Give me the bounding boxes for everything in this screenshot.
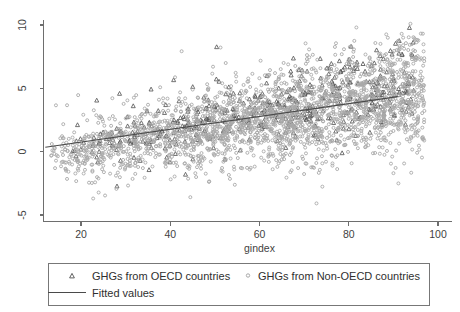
data-point: [196, 166, 199, 169]
data-point: [134, 128, 137, 131]
data-point: [271, 168, 274, 171]
data-point: [255, 88, 258, 91]
data-point: [108, 117, 111, 120]
data-point: [311, 53, 314, 56]
data-point: [156, 123, 159, 126]
data-point: [233, 183, 236, 186]
data-point: [133, 116, 136, 119]
data-point: [262, 150, 265, 153]
data-point: [233, 168, 236, 171]
data-point: [127, 147, 130, 150]
data-point: [196, 96, 199, 99]
legend-item[interactable]: GHGs from Non-OECD countries: [246, 270, 420, 282]
data-point: [336, 168, 339, 171]
data-point: [228, 177, 231, 180]
data-point: [268, 146, 271, 149]
data-point: [245, 111, 248, 114]
data-point: [73, 131, 76, 134]
data-point: [400, 32, 403, 35]
data-point: [354, 103, 357, 106]
data-point: [221, 166, 224, 169]
data-point: [201, 105, 204, 108]
data-point: [315, 90, 318, 93]
data-point: [102, 120, 105, 123]
data-point: [203, 115, 206, 118]
data-point: [83, 168, 86, 171]
data-point: [97, 145, 100, 148]
data-point: [408, 140, 411, 143]
data-point: [133, 147, 136, 150]
data-point: [412, 62, 415, 65]
data-point: [176, 165, 179, 168]
data-point: [259, 59, 262, 62]
data-point: [94, 181, 97, 184]
data-point: [92, 109, 95, 112]
data-point: [214, 96, 217, 99]
data-point: [405, 138, 408, 141]
data-point: [385, 149, 388, 152]
data-point: [386, 36, 389, 39]
data-point: [246, 80, 249, 83]
data-point: [190, 103, 193, 106]
data-point: [50, 143, 53, 146]
data-point: [92, 149, 95, 152]
data-point: [200, 152, 203, 155]
data-point: [347, 117, 350, 120]
data-point: [136, 119, 139, 122]
data-point: [195, 130, 198, 133]
data-point: [177, 151, 180, 154]
data-point: [407, 36, 410, 39]
data-point: [249, 131, 252, 134]
data-point: [291, 135, 294, 138]
data-point: [403, 47, 406, 50]
data-point: [77, 94, 80, 97]
data-point: [179, 110, 182, 113]
data-point: [119, 166, 122, 169]
data-point: [169, 178, 172, 181]
data-point: [300, 104, 303, 107]
data-point: [104, 148, 107, 151]
data-point: [95, 98, 99, 102]
data-point: [179, 91, 182, 94]
data-point: [288, 153, 291, 156]
data-point: [304, 146, 307, 149]
data-point: [164, 165, 167, 168]
data-point: [417, 144, 420, 147]
x-axis-tick-label: 40: [164, 228, 176, 240]
data-point: [325, 160, 328, 163]
data-point: [339, 134, 342, 137]
data-point: [321, 185, 324, 188]
data-point: [421, 126, 424, 129]
data-point: [104, 194, 107, 197]
data-point: [209, 160, 212, 163]
data-point: [214, 132, 217, 135]
data-point: [320, 155, 323, 158]
data-point: [129, 152, 132, 155]
data-point: [279, 68, 282, 71]
data-point: [317, 171, 320, 174]
legend-item[interactable]: GHGs from OECD countries: [70, 270, 231, 282]
data-point: [389, 117, 392, 120]
data-point: [178, 145, 181, 148]
data-point: [397, 182, 400, 185]
data-point: [260, 84, 263, 87]
chart-legend: GHGs from OECD countriesGHGs from Non-OE…: [48, 263, 429, 305]
data-point: [421, 112, 424, 115]
data-point: [223, 143, 226, 146]
data-point: [203, 125, 206, 128]
data-point: [92, 197, 95, 200]
data-point: [177, 97, 180, 100]
data-point: [397, 76, 400, 79]
data-point: [379, 139, 382, 142]
data-point: [222, 160, 225, 163]
data-point: [162, 126, 165, 129]
data-point: [378, 60, 381, 63]
data-point-layer: [50, 22, 426, 205]
data-point: [141, 167, 144, 170]
data-point: [242, 83, 245, 86]
data-point: [227, 173, 230, 176]
data-point: [303, 143, 306, 146]
data-point: [236, 157, 239, 160]
data-point: [260, 156, 263, 159]
data-point: [277, 144, 280, 147]
